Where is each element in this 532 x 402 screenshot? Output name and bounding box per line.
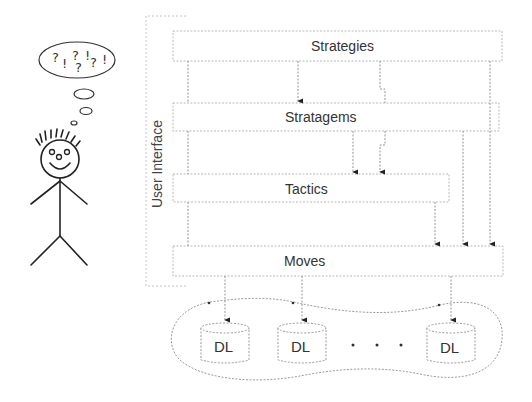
layer-label-strategies: Strategies: [311, 38, 374, 54]
svg-text:!: !: [102, 52, 107, 67]
layer-moves: Moves: [173, 246, 503, 276]
svg-text:?: ?: [52, 50, 59, 65]
dl-label-3: DL: [440, 339, 459, 356]
layer-label-tactics: Tactics: [285, 181, 328, 197]
stick-person-icon: [31, 129, 87, 265]
data-layer-1: DL: [201, 323, 249, 363]
thought-bubble: ? ! ? ! ? ? !: [39, 42, 115, 125]
layer-label-moves: Moves: [284, 253, 325, 269]
layer-tactics: Tactics: [173, 174, 449, 202]
data-layer-3: DL: [427, 323, 475, 363]
dl-label-1: DL: [214, 338, 233, 355]
dl-label-2: DL: [291, 338, 310, 355]
layer-strategies: Strategies: [173, 31, 502, 61]
user-interface-label: User Interface: [149, 120, 165, 208]
svg-text:!: !: [62, 56, 67, 71]
svg-text:?: ?: [75, 60, 82, 75]
svg-text:?: ?: [90, 55, 97, 70]
layer-connections: [298, 61, 490, 244]
ellipsis-dots: [352, 344, 403, 347]
data-layer-2: DL: [278, 323, 326, 363]
layer-label-stratagems: Stratagems: [285, 109, 357, 125]
architecture-diagram: User Interface Strategies Stratagems Tac…: [0, 0, 532, 402]
layer-stratagems: Stratagems: [173, 103, 499, 131]
